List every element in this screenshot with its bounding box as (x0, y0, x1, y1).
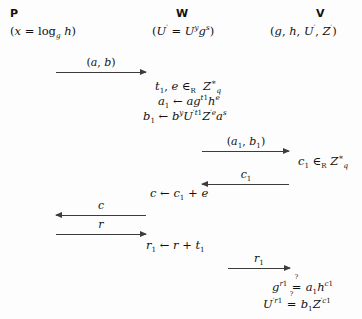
arrow-message-1 (56, 72, 146, 73)
arrow-label-message-5: r (98, 219, 103, 230)
arrow-message-3 (202, 184, 289, 185)
computation-v-random: c1 ∈R Z∗q (298, 156, 348, 168)
party-params-p: (x = logg h) (10, 26, 76, 38)
party-params-w: (U′ = Uygs) (152, 26, 214, 38)
arrow-label-message-2: (a1, b1) (227, 136, 265, 147)
party-label-v: V (316, 8, 325, 19)
arrow-label-message-1: (a, b) (86, 57, 115, 68)
computation-w-c: c ← c1 + e (150, 188, 208, 200)
verification-equation-2: U′r1 ?= b1Z′c1 (263, 299, 331, 311)
arrow-message-4 (56, 215, 146, 216)
verification-equation-1: gr1 ?= a1hc1 (272, 282, 333, 294)
arrow-message-5 (56, 234, 146, 235)
computation-w-random: t1, e ∈R Z∗q (155, 81, 221, 93)
party-label-w: W (176, 8, 188, 19)
arrow-label-message-3: c1 (241, 169, 252, 180)
computation-w-a1: a1 ← agt1he (158, 96, 220, 108)
party-params-v: (g, h, U′, Z′) (270, 26, 337, 38)
arrow-label-message-4: c (98, 200, 104, 211)
computation-w-b1: b1 ← byU′t1Z′eas (143, 111, 227, 123)
arrow-message-6 (228, 268, 290, 269)
protocol-diagram: P (x = logg h) W (U′ = Uygs) V (g, h, U′… (0, 0, 362, 319)
arrow-label-message-6: r1 (254, 253, 264, 264)
arrow-message-2 (202, 151, 289, 152)
computation-w-r1: r1 ← r + t1 (146, 240, 205, 252)
party-label-p: P (10, 8, 18, 19)
